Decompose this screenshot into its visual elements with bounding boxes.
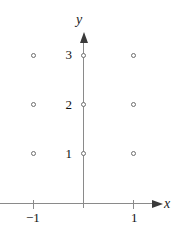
data-point-marker	[131, 151, 136, 156]
data-point-marker	[131, 53, 136, 58]
data-point-marker	[81, 53, 86, 58]
data-point-marker	[31, 53, 36, 58]
data-point-marker	[81, 151, 86, 156]
y-tick-label-3: 3	[56, 48, 72, 61]
y-tick-label-2: 2	[56, 98, 72, 111]
x-axis-arrow-icon	[152, 200, 163, 208]
data-point-marker	[81, 102, 86, 107]
x-axis-label: x	[164, 197, 170, 211]
data-point-marker	[31, 151, 36, 156]
y-axis-arrow-icon	[80, 32, 88, 43]
x-tick-minus-1	[33, 200, 34, 209]
x-axis-line	[0, 203, 159, 204]
x-tick-1	[133, 200, 134, 209]
data-point-marker	[31, 102, 36, 107]
y-axis-label: y	[76, 13, 82, 27]
x-tick-label-minus-1: −1	[26, 211, 40, 224]
data-point-marker	[131, 102, 136, 107]
coordinate-plane-figure: y x −1 1 3 2 1	[0, 0, 177, 232]
y-tick-label-1: 1	[56, 147, 72, 160]
x-tick-label-1: 1	[131, 211, 138, 224]
y-axis-line	[83, 36, 84, 208]
